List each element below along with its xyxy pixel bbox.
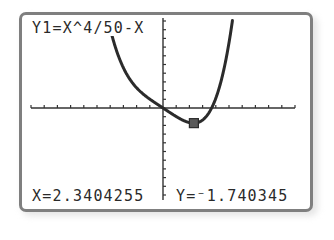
y-coordinate-readout: Y=⁻1.740345 (174, 188, 289, 204)
trace-cursor[interactable] (189, 119, 198, 128)
x-coordinate-readout: X=2.3404255 (32, 188, 147, 204)
function-label: Y1=X^4/50-X (32, 20, 145, 36)
